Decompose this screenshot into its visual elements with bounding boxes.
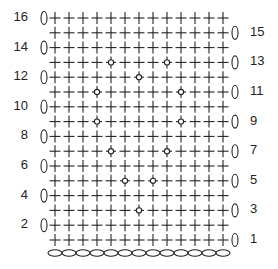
single-crochet-icon — [120, 160, 131, 172]
row-9 — [50, 115, 239, 128]
single-crochet-icon — [162, 160, 173, 172]
single-crochet-icon — [134, 86, 145, 98]
single-crochet-icon — [64, 175, 75, 187]
single-crochet-icon — [218, 56, 229, 68]
single-crochet-icon — [78, 101, 89, 113]
single-crochet-icon — [50, 56, 61, 68]
single-crochet-icon — [148, 12, 159, 24]
single-crochet-icon — [106, 130, 117, 142]
single-crochet-icon — [190, 204, 201, 216]
row-label-8: 8 — [0, 128, 28, 142]
single-crochet-icon — [162, 12, 173, 24]
row-label-11: 11 — [250, 84, 264, 98]
row-label-15: 15 — [250, 25, 264, 39]
single-crochet-icon — [148, 56, 159, 68]
single-crochet-icon — [106, 42, 117, 54]
single-crochet-icon — [120, 71, 131, 83]
single-crochet-icon — [64, 130, 75, 142]
single-crochet-icon — [106, 116, 117, 128]
single-crochet-icon — [176, 160, 187, 172]
single-crochet-icon — [120, 145, 131, 157]
single-crochet-icon — [218, 219, 229, 231]
chain-stitch-icon — [90, 250, 104, 256]
turning-chain-icon — [232, 204, 238, 217]
single-crochet-icon — [134, 42, 145, 54]
single-crochet-icon — [50, 27, 61, 39]
single-crochet-icon — [162, 175, 173, 187]
row-5 — [50, 174, 239, 187]
single-crochet-icon — [204, 86, 215, 98]
single-crochet-icon — [92, 56, 103, 68]
row-7 — [50, 145, 239, 158]
single-crochet-icon — [176, 219, 187, 231]
single-crochet-icon — [190, 42, 201, 54]
turning-chain-icon — [232, 234, 238, 247]
single-crochet-icon — [78, 204, 89, 216]
row-label-12: 12 — [0, 69, 28, 83]
single-crochet-icon — [162, 86, 173, 98]
chain-stitch-icon — [216, 250, 230, 256]
single-crochet-icon — [204, 116, 215, 128]
single-crochet-icon — [134, 56, 145, 68]
single-crochet-icon — [218, 234, 229, 246]
single-crochet-icon — [162, 101, 173, 113]
single-crochet-icon — [92, 175, 103, 187]
single-crochet-icon — [162, 130, 173, 142]
single-crochet-icon — [162, 219, 173, 231]
single-crochet-icon — [78, 42, 89, 54]
single-crochet-icon — [50, 42, 61, 54]
row-label-5: 5 — [250, 173, 257, 187]
dot-stitch-icon — [106, 145, 116, 157]
single-crochet-icon — [50, 101, 61, 113]
single-crochet-icon — [190, 86, 201, 98]
chain-stitch-icon — [76, 250, 90, 256]
single-crochet-icon — [64, 234, 75, 246]
row-label-13: 13 — [250, 54, 264, 68]
single-crochet-icon — [134, 101, 145, 113]
single-crochet-icon — [120, 219, 131, 231]
single-crochet-icon — [78, 27, 89, 39]
single-crochet-icon — [106, 190, 117, 202]
chain-stitch-icon — [202, 250, 216, 256]
single-crochet-icon — [64, 160, 75, 172]
single-crochet-icon — [204, 42, 215, 54]
single-crochet-icon — [120, 12, 131, 24]
row-3 — [50, 204, 239, 217]
single-crochet-icon — [148, 27, 159, 39]
single-crochet-icon — [218, 145, 229, 157]
single-crochet-icon — [92, 234, 103, 246]
row-1 — [50, 234, 239, 247]
single-crochet-icon — [50, 116, 61, 128]
turning-chain-icon — [232, 26, 238, 39]
row-label-16: 16 — [0, 10, 28, 24]
crochet-chart: 12345678910111213141516 — [0, 0, 278, 269]
single-crochet-icon — [190, 234, 201, 246]
row-label-3: 3 — [250, 202, 257, 216]
single-crochet-icon — [106, 160, 117, 172]
turning-chain-icon — [232, 56, 238, 69]
single-crochet-icon — [218, 116, 229, 128]
row-6 — [41, 160, 229, 173]
single-crochet-icon — [78, 12, 89, 24]
chain-stitch-icon — [104, 250, 118, 256]
single-crochet-icon — [78, 56, 89, 68]
single-crochet-icon — [50, 219, 61, 231]
single-crochet-icon — [176, 234, 187, 246]
single-crochet-icon — [92, 190, 103, 202]
single-crochet-icon — [176, 42, 187, 54]
single-crochet-icon — [204, 71, 215, 83]
single-crochet-icon — [50, 12, 61, 24]
row-13 — [50, 56, 239, 69]
single-crochet-icon — [120, 190, 131, 202]
single-crochet-icon — [92, 145, 103, 157]
single-crochet-icon — [190, 101, 201, 113]
single-crochet-icon — [134, 234, 145, 246]
single-crochet-icon — [92, 42, 103, 54]
single-crochet-icon — [218, 130, 229, 142]
row-4 — [41, 189, 229, 202]
single-crochet-icon — [134, 160, 145, 172]
single-crochet-icon — [204, 56, 215, 68]
row-label-10: 10 — [0, 99, 28, 113]
single-crochet-icon — [106, 71, 117, 83]
single-crochet-icon — [78, 116, 89, 128]
